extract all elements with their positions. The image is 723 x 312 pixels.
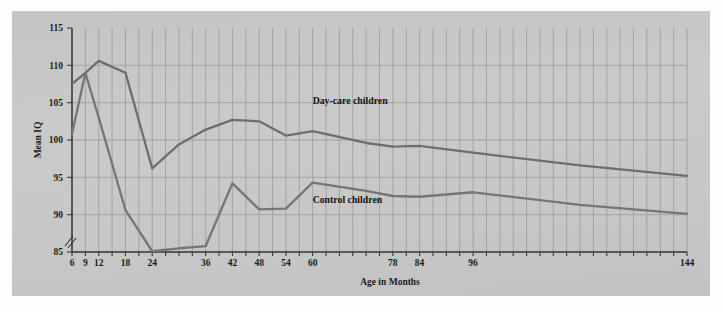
x-tick-label: 144 — [680, 258, 695, 268]
series-annotation: Control children — [313, 194, 383, 205]
x-tick-label: 42 — [228, 258, 238, 268]
x-tick-label: 9 — [83, 258, 88, 268]
x-axis-title: Age in Months — [360, 277, 420, 287]
x-tick-label: 36 — [201, 258, 211, 268]
y-tick-label: 105 — [49, 98, 64, 108]
y-tick-label: 90 — [54, 210, 64, 220]
x-tick-label: 18 — [121, 258, 131, 268]
x-tick-label: 96 — [468, 258, 478, 268]
y-tick-label: 95 — [54, 173, 64, 183]
series-annotation: Day-care children — [313, 95, 389, 106]
x-tick-label: 6 — [70, 258, 75, 268]
x-tick-label: 12 — [94, 258, 104, 268]
y-tick-label: 110 — [49, 61, 63, 71]
y-axis-title: Mean IQ — [33, 122, 43, 159]
y-tick-label: 115 — [49, 23, 63, 33]
x-tick-label: 54 — [281, 258, 291, 268]
chart-figure: 691218243642485460788496144 859095100105… — [0, 0, 723, 312]
y-tick-label: 100 — [49, 135, 64, 145]
x-tick-label: 60 — [308, 258, 318, 268]
x-tick-label: 48 — [254, 258, 264, 268]
x-tick-labels: 691218243642485460788496144 — [70, 258, 695, 268]
x-tick-label: 84 — [415, 258, 425, 268]
y-tick-labels: 859095100105110115 — [49, 23, 64, 257]
x-tick-label: 78 — [388, 258, 398, 268]
axis-break-icon — [65, 236, 76, 248]
line-chart: 691218243642485460788496144 859095100105… — [0, 0, 723, 312]
x-tick-label: 24 — [147, 258, 157, 268]
y-tick-label: 85 — [54, 247, 64, 257]
